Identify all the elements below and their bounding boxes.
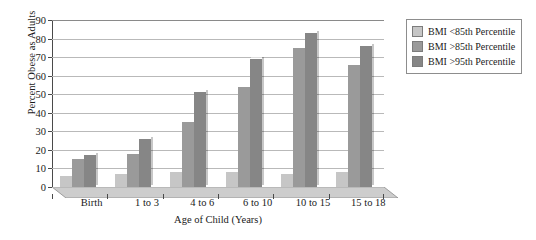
legend-item-label: BMI >85th Percentile — [428, 42, 515, 52]
x-axis-tick-label: 6 to 10 — [243, 197, 272, 208]
y-axis-tick-label: 30 — [36, 126, 47, 137]
y-axis-tick-label: 50 — [36, 89, 47, 100]
bar-side-face — [96, 153, 98, 185]
chart-legend: BMI <85th PercentileBMI >85th Percentile… — [406, 19, 522, 74]
bar-face — [293, 48, 305, 187]
legend-item: BMI >95th Percentile — [412, 54, 515, 69]
bar-top-face — [171, 170, 182, 172]
bar-top-face — [227, 170, 238, 172]
y-axis-tick-label: 80 — [36, 33, 47, 44]
x-axis-tick-label: 10 to 15 — [296, 197, 330, 208]
bar-top-face — [251, 57, 262, 59]
bar-top-face — [116, 172, 127, 174]
x-axis-title: Age of Child (Years) — [52, 214, 384, 225]
legend-item-label: BMI >95th Percentile — [428, 57, 515, 67]
bar-side-face — [206, 90, 208, 185]
legend-item: BMI <85th Percentile — [412, 24, 515, 39]
bar-top-face — [61, 174, 72, 176]
bar-face — [336, 172, 348, 187]
bar-top-face — [195, 90, 206, 92]
x-axis-tick-label: 15 to 18 — [351, 197, 385, 208]
bar — [305, 33, 317, 187]
bar — [360, 46, 372, 187]
x-axis-tick-label: 1 to 3 — [135, 197, 159, 208]
bar-group — [281, 20, 317, 187]
bar-side-face — [317, 31, 319, 185]
bar — [293, 48, 305, 187]
bar-group — [60, 20, 96, 187]
bar-top-face — [282, 172, 293, 174]
bar-face — [72, 159, 84, 187]
legend-item-label: BMI <85th Percentile — [428, 27, 515, 37]
legend-swatch-icon — [412, 41, 423, 52]
bar-top-face — [239, 85, 250, 87]
bar-face — [60, 176, 72, 187]
bar-face — [226, 172, 238, 187]
x-axis-tick-label: Birth — [81, 197, 103, 208]
bar-face — [182, 122, 194, 187]
y-axis-tick-label: 20 — [36, 144, 47, 155]
bar — [115, 174, 127, 187]
bar-side-face — [262, 57, 264, 185]
y-axis-tick-label: 90 — [36, 15, 47, 26]
bar-group — [226, 20, 262, 187]
bar-top-face — [349, 63, 360, 65]
bar-face — [238, 87, 250, 187]
bars-layer — [52, 20, 384, 187]
bar — [250, 59, 262, 187]
bar-side-face — [372, 44, 374, 185]
y-axis-tick-label: 10 — [36, 163, 47, 174]
bar-face — [305, 33, 317, 187]
x-axis-tick-labels: Birth1 to 34 to 66 to 1010 to 1515 to 18 — [52, 197, 398, 213]
bar-top-face — [306, 31, 317, 33]
bar-top-face — [85, 153, 96, 155]
bar — [84, 155, 96, 187]
bar-face — [250, 59, 262, 187]
legend-swatch-icon — [412, 26, 423, 37]
bar-face — [348, 65, 360, 187]
bar-face — [139, 139, 151, 187]
bar — [336, 172, 348, 187]
bar — [348, 65, 360, 187]
y-axis-tick-label: 40 — [36, 107, 47, 118]
bar-top-face — [73, 157, 84, 159]
bar-face — [84, 155, 96, 187]
legend-swatch-icon — [412, 56, 423, 67]
bar — [139, 139, 151, 187]
bar — [182, 122, 194, 187]
bar-side-face — [151, 137, 153, 185]
bar — [226, 172, 238, 187]
legend-item: BMI >85th Percentile — [412, 39, 515, 54]
bar-top-face — [183, 120, 194, 122]
bar-top-face — [361, 44, 372, 46]
bar-face — [281, 174, 293, 187]
bar — [60, 176, 72, 187]
bar-group — [115, 20, 151, 187]
bar-top-face — [140, 137, 151, 139]
bar-top-face — [294, 46, 305, 48]
bar-face — [127, 154, 139, 187]
bar-top-face — [128, 152, 139, 154]
plot-area: 0102030405060708090 — [52, 20, 384, 187]
bar — [127, 154, 139, 187]
bar — [72, 159, 84, 187]
bar-face — [194, 92, 206, 187]
y-axis-tick-label: 60 — [36, 70, 47, 81]
bar-top-face — [337, 170, 348, 172]
x-axis-tick-label: 4 to 6 — [190, 197, 214, 208]
bar-face — [170, 172, 182, 187]
bar-group — [170, 20, 206, 187]
bar — [170, 172, 182, 187]
bar-face — [115, 174, 127, 187]
bar — [194, 92, 206, 187]
y-axis-tick-label: 0 — [41, 182, 46, 193]
bar — [238, 87, 250, 187]
bar-face — [360, 46, 372, 187]
bar — [281, 174, 293, 187]
y-axis-tick-label: 70 — [36, 52, 47, 63]
bar-chart: Percent Obese as Adults 0102030405060708… — [0, 0, 536, 240]
bar-group — [336, 20, 372, 187]
